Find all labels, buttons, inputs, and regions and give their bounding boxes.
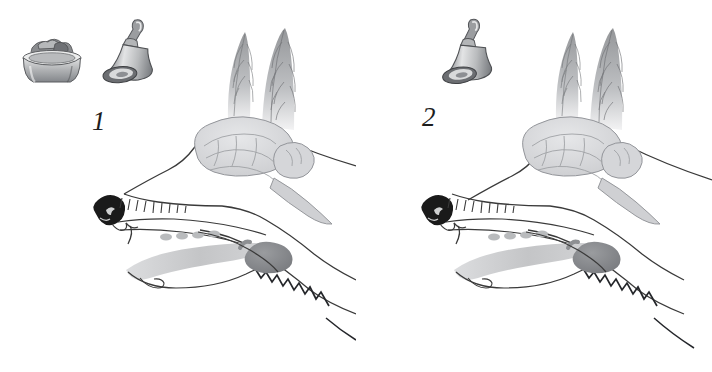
ear-left <box>228 32 253 122</box>
taste-buds <box>160 231 220 241</box>
panel-1-artwork <box>0 0 356 372</box>
food-bowl <box>23 39 81 82</box>
spinal-cord <box>256 270 356 340</box>
conditioning-figure: 1 <box>0 0 712 372</box>
brain <box>523 117 660 224</box>
panel-2: 2 <box>356 0 712 372</box>
panel-1: 1 <box>0 0 356 372</box>
teeth <box>120 198 186 213</box>
bell <box>440 17 497 91</box>
panel-2-artwork <box>356 0 712 372</box>
teeth <box>448 198 514 213</box>
spinal-cord <box>584 270 694 348</box>
ear-left <box>556 32 581 122</box>
brainstem <box>270 178 332 224</box>
nose <box>421 195 453 225</box>
ear-right <box>590 28 623 130</box>
taste-buds <box>488 231 548 241</box>
nose <box>93 195 125 225</box>
bell <box>100 15 161 92</box>
muzzle <box>112 219 266 244</box>
muzzle <box>440 219 594 244</box>
ear-right <box>262 28 295 130</box>
brain <box>195 117 332 224</box>
brainstem <box>598 178 660 224</box>
